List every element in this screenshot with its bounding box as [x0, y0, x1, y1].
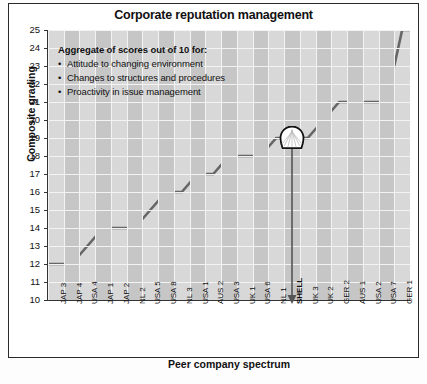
x-tick-label: UK 2 [326, 286, 335, 304]
shell-pecten-logo-icon [279, 126, 305, 150]
horizontal-gridline [48, 174, 410, 175]
horizontal-gridline [48, 264, 410, 265]
x-tick-label: JAP 3 [59, 283, 68, 304]
x-axis-title: Peer company spectrum [48, 358, 410, 370]
y-tick-mark [44, 300, 48, 301]
vertical-gridline [347, 30, 348, 300]
y-tick-mark [44, 264, 48, 265]
plot-band [347, 30, 363, 300]
y-tick-mark [44, 138, 48, 139]
horizontal-gridline [48, 138, 410, 139]
y-axis-title: Composite grading [25, 39, 37, 189]
y-tick-label: 15 [18, 204, 40, 215]
x-tick-label: JAP 2 [122, 283, 131, 304]
y-tick-mark [44, 66, 48, 67]
vertical-gridline [379, 30, 380, 300]
x-axis-line [47, 300, 411, 301]
y-tick-mark [44, 228, 48, 229]
y-tick-mark [44, 102, 48, 103]
annotation-box: Aggregate of scores out of 10 for: Attit… [58, 44, 273, 100]
vertical-gridline [363, 30, 364, 300]
x-tick-label: GER 1 [405, 280, 414, 304]
x-tick-label: USA 6 [263, 281, 272, 304]
x-tick-label: UK 1 [248, 286, 257, 304]
y-tick-label: 25 [18, 24, 40, 35]
x-tick-label: USA 2 [374, 281, 383, 304]
y-tick-mark [44, 174, 48, 175]
x-tick-label: JAP 1 [106, 283, 115, 304]
horizontal-gridline [48, 156, 410, 157]
annotation-item: Attitude to changing environment [58, 58, 273, 69]
horizontal-gridline [48, 246, 410, 247]
x-tick-label: USA 3 [232, 281, 241, 304]
x-tick-label: NL 3 [185, 287, 194, 304]
vertical-gridline [331, 30, 332, 300]
y-tick-label: 13 [18, 240, 40, 251]
y-tick-mark [44, 210, 48, 211]
x-tick-label: AUS 2 [216, 281, 225, 304]
y-tick-mark [44, 30, 48, 31]
x-tick-label: USA 7 [389, 281, 398, 304]
y-axis-line [47, 30, 48, 300]
y-tick-mark [44, 120, 48, 121]
chart-screenshot: Corporate reputation management 10111213… [0, 0, 427, 384]
horizontal-gridline [48, 102, 410, 103]
x-tick-label: USA 4 [90, 281, 99, 304]
annotation-item: Changes to structures and procedures [58, 72, 273, 83]
y-tick-label: 14 [18, 222, 40, 233]
annotation-title: Aggregate of scores out of 10 for: [58, 44, 273, 55]
y-tick-mark [44, 282, 48, 283]
vertical-gridline [394, 30, 395, 300]
y-tick-label: 11 [18, 276, 40, 287]
x-tick-label: UK 3 [311, 286, 320, 304]
y-tick-mark [44, 156, 48, 157]
plot-band [379, 30, 395, 300]
horizontal-gridline [48, 120, 410, 121]
x-tick-label: AUS 1 [358, 281, 367, 304]
horizontal-gridline [48, 210, 410, 211]
plot-band [316, 30, 332, 300]
x-tick-label: JAP 4 [75, 283, 84, 304]
x-tick-label: USA 5 [153, 281, 162, 304]
annotation-item: Proactivity in issue management [58, 86, 273, 97]
x-tick-label: USA 8 [169, 281, 178, 304]
chart-title: Corporate reputation management [8, 8, 419, 22]
y-tick-mark [44, 192, 48, 193]
y-tick-label: 10 [18, 294, 40, 305]
vertical-gridline [48, 30, 49, 300]
y-tick-label: 12 [18, 258, 40, 269]
x-tick-label: GER 2 [342, 280, 351, 304]
x-tick-label: NL 2 [138, 287, 147, 304]
y-tick-mark [44, 84, 48, 85]
horizontal-gridline [48, 192, 410, 193]
y-tick-mark [44, 48, 48, 49]
vertical-gridline [316, 30, 317, 300]
horizontal-gridline [48, 30, 410, 31]
horizontal-gridline [48, 228, 410, 229]
x-tick-label: USA 1 [201, 281, 210, 304]
highlight-arrow-icon [282, 138, 302, 304]
y-tick-mark [44, 246, 48, 247]
horizontal-gridline [48, 282, 410, 283]
